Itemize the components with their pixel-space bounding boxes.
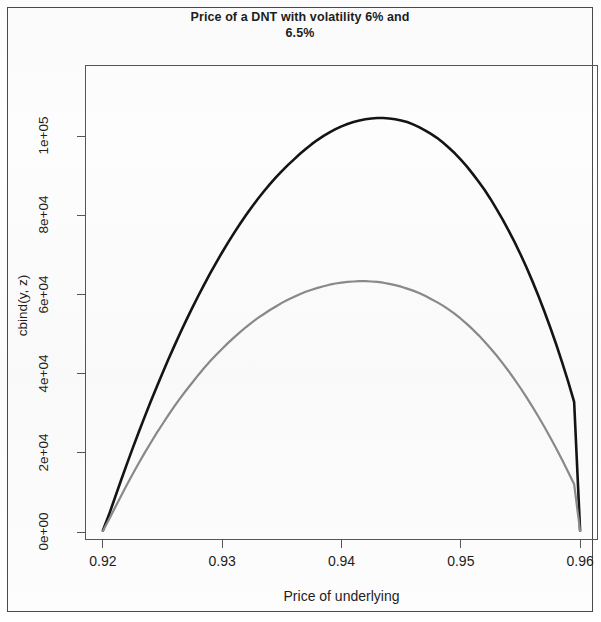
x-tick-label: 0.94 [312, 553, 372, 569]
x-tick-mark [102, 540, 103, 548]
chart-title-line-1: Price of a DNT with volatility 6% and [100, 9, 500, 25]
x-tick-label: 0.95 [431, 553, 491, 569]
x-tick-mark [341, 540, 342, 548]
y-tick-label: 2e+04 [36, 424, 51, 480]
plot-curves [85, 65, 598, 540]
chart-title-line-2: 6.5% [100, 25, 500, 41]
x-axis-label: Price of underlying [85, 588, 598, 604]
chart-figure: Price of a DNT with volatility 6% and 6.… [0, 0, 601, 622]
x-tick-label: 0.92 [73, 553, 133, 569]
x-tick-mark [222, 540, 223, 548]
x-tick-label: 0.93 [192, 553, 252, 569]
y-tick-mark [77, 373, 85, 374]
y-tick-mark [77, 532, 85, 533]
series-line-1 [103, 281, 580, 531]
y-tick-label: 4e+04 [36, 345, 51, 401]
y-tick-mark [77, 136, 85, 137]
chart-title: Price of a DNT with volatility 6% and 6.… [100, 9, 500, 41]
y-tick-label: 1e+05 [36, 108, 51, 164]
y-tick-mark [77, 452, 85, 453]
y-tick-mark [77, 215, 85, 216]
y-tick-label: 8e+04 [36, 187, 51, 243]
y-tick-label: 0e+00 [36, 504, 51, 560]
y-tick-label: 6e+04 [36, 266, 51, 322]
y-axis-label: cbind(y, z) [15, 261, 30, 351]
x-tick-mark [580, 540, 581, 548]
x-tick-label: 0.96 [550, 553, 601, 569]
x-tick-mark [460, 540, 461, 548]
series-line-0 [103, 118, 580, 530]
y-tick-mark [77, 294, 85, 295]
